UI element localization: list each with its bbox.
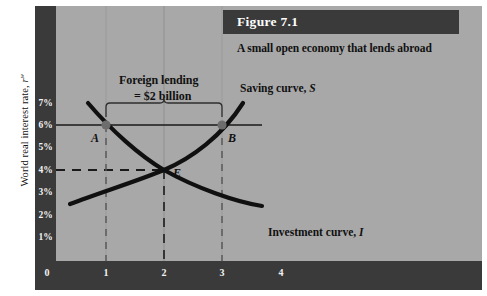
- figure-caption: A small open economy that lends abroad: [237, 42, 432, 54]
- x-tick-2: 2: [155, 267, 173, 279]
- y-axis-title-text: World real interest rate,: [19, 83, 30, 187]
- foreign-lending-label-line1: Foreign lending: [119, 73, 198, 88]
- y-tick-1: 1%: [35, 232, 56, 242]
- saving-curve-symbol: S: [309, 82, 315, 94]
- point-label-b: B: [228, 131, 236, 146]
- figure-banner: Figure 7.1: [223, 10, 459, 34]
- investment-curve: [88, 103, 262, 206]
- x-tick-3: 3: [213, 267, 231, 279]
- y-tick-3: 3%: [35, 187, 56, 197]
- y-tick-6: 6%: [35, 120, 56, 130]
- figure-container: World real interest rate, rw 7% 6% 5% 4%…: [0, 0, 487, 296]
- point-marker-b: [217, 120, 226, 129]
- y-tick-4: 4%: [35, 165, 56, 175]
- point-marker-a: [101, 120, 110, 129]
- y-tick-5: 5%: [35, 142, 56, 152]
- investment-curve-label-text: Investment curve,: [268, 226, 359, 238]
- y-axis-title-superscript: w: [18, 74, 25, 78]
- point-label-e: E: [173, 166, 181, 181]
- y-tick-7: 7%: [35, 98, 56, 108]
- figure-number: Figure 7.1: [237, 14, 298, 30]
- saving-curve: [70, 103, 243, 204]
- x-tick-0: 0: [38, 267, 56, 279]
- saving-curve-label: Saving curve, S: [240, 82, 316, 94]
- investment-curve-label: Investment curve, I: [268, 226, 364, 238]
- y-tick-2: 2%: [35, 210, 56, 220]
- y-axis-title: World real interest rate, rw: [18, 40, 31, 220]
- point-label-a: A: [91, 131, 99, 146]
- foreign-lending-label-line2: = $2 billion: [134, 89, 192, 104]
- x-tick-1: 1: [97, 267, 115, 279]
- saving-curve-label-text: Saving curve,: [240, 82, 309, 94]
- x-tick-4: 4: [272, 267, 290, 279]
- investment-curve-symbol: I: [359, 226, 363, 238]
- y-axis-title-symbol: r: [19, 78, 30, 82]
